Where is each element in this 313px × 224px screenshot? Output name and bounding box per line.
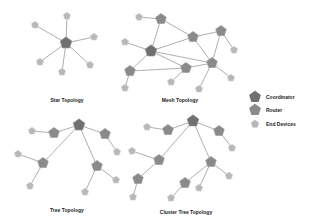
cluster-tree-topology [128,115,235,201]
legend-router-icon [249,104,261,115]
router-node [100,128,111,138]
end-device-node [195,184,202,191]
router-node [188,31,199,41]
end-device-node [58,68,65,75]
link-line [151,37,193,51]
cluster-tree-caption: Cluster Tree Topology [160,209,212,215]
end-device-node [28,127,35,134]
router-node [133,173,144,183]
end-device-node [81,188,88,195]
coordinator-node [187,115,199,126]
end-device-node [31,21,38,28]
end-device-node [113,148,120,155]
mesh-topology [121,13,237,92]
link-line [79,125,97,166]
legend-coordinator-icon [249,91,261,102]
end-device-node [90,33,97,40]
end-device-node [121,38,128,45]
end-device-node [195,85,202,92]
link-line [161,19,193,37]
router-node [163,124,174,134]
legend-router-label: Router [266,107,282,113]
router-node [216,25,227,35]
end-device-node [128,147,135,154]
end-device-node [227,74,234,81]
router-node [180,177,191,187]
tree-caption: Tree Topology [50,207,84,213]
router-node [92,160,103,170]
router-node [207,57,218,67]
end-device-node [230,46,237,53]
legend-end-device-icon [251,120,259,128]
legend [249,91,261,128]
legend-coordinator-label: Coordinator [266,94,295,100]
tree-topology [14,119,120,195]
star-topology [31,12,97,75]
coordinator-node [73,119,85,130]
end-device-node [112,176,119,183]
end-device-node [63,12,70,19]
end-device-node [121,84,128,91]
router-node [49,127,60,137]
router-node [206,156,217,166]
star-caption: Star Topology [50,97,83,103]
router-node [156,13,167,23]
mesh-caption: Mesh Topology [162,97,198,103]
end-device-node [36,58,43,65]
end-device-node [135,13,142,20]
end-device-node [14,150,21,157]
legend-end-device-label: End Devices [266,121,296,127]
link-line [151,51,186,68]
end-device-node [143,123,150,130]
link-line [130,68,186,71]
end-device-node [26,182,33,189]
link-line [151,51,212,63]
end-device-node [225,172,232,179]
router-node [214,125,225,135]
coordinator-node [60,37,72,48]
end-device-node [129,193,136,200]
router-node [181,62,192,72]
coordinator-node [145,45,157,56]
